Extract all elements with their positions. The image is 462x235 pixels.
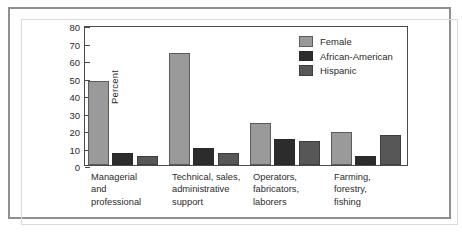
bar	[137, 156, 158, 165]
bar-group	[166, 27, 247, 165]
bar	[218, 153, 239, 165]
y-tick-label: 10	[54, 144, 80, 155]
y-tick-label: 40	[54, 92, 80, 103]
bar	[299, 141, 320, 166]
legend-swatch-female	[299, 36, 313, 47]
legend-item-female: Female	[299, 36, 393, 47]
bar-group	[85, 27, 166, 165]
y-tick-label: 60	[54, 57, 80, 68]
y-tick-label: 50	[54, 74, 80, 85]
x-category-label: Managerial and professional	[91, 171, 166, 208]
chart-figure: Percent 01020304050607080 Managerial and…	[0, 0, 462, 235]
bar	[193, 148, 214, 166]
bar	[169, 53, 190, 165]
bar	[355, 156, 376, 165]
x-category-label: Operators, fabricators, laborers	[253, 171, 328, 208]
chart-legend: Female African-American Hispanic	[299, 36, 393, 76]
bar	[380, 135, 401, 165]
y-tick-label: 20	[54, 127, 80, 138]
legend-label-african-american: African-American	[320, 51, 393, 62]
bar	[274, 139, 295, 165]
bar	[250, 123, 271, 165]
y-tick-label: 80	[54, 22, 80, 33]
y-tick-label: 30	[54, 109, 80, 120]
bar	[112, 153, 133, 165]
legend-label-female: Female	[320, 36, 352, 47]
legend-item-hispanic: Hispanic	[299, 65, 393, 76]
plot-area: Percent 01020304050607080 Managerial and…	[84, 26, 408, 166]
y-tick-label: 70	[54, 39, 80, 50]
y-tick-mark	[85, 167, 90, 168]
legend-swatch-hispanic	[299, 65, 313, 76]
y-tick-label: 0	[54, 162, 80, 173]
legend-label-hispanic: Hispanic	[320, 65, 356, 76]
bar	[88, 81, 109, 165]
legend-item-african-american: African-American	[299, 51, 393, 62]
x-category-label: Technical, sales, administrative support	[172, 171, 247, 208]
bar	[331, 132, 352, 165]
legend-swatch-african-american	[299, 51, 313, 62]
x-category-label: Farming, forestry, fishing	[334, 171, 409, 208]
